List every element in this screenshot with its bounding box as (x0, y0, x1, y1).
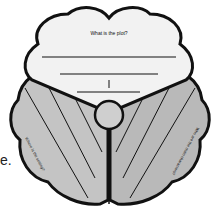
top-prompt: What is the plot? (90, 30, 127, 36)
story-flower-organizer: What is the plot? Where is the setting? … (0, 0, 218, 214)
center-circle (95, 101, 123, 129)
